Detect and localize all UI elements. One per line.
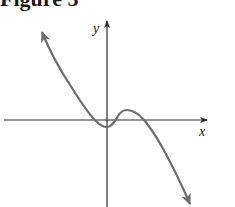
- function-graph: x y: [0, 0, 235, 207]
- function-curve-lower-tail: [168, 158, 190, 204]
- y-axis-label: y: [91, 21, 100, 36]
- function-curve-left: [72, 88, 107, 127]
- x-axis-label: x: [198, 124, 206, 139]
- function-curve-upper-tail: [42, 32, 72, 88]
- function-curve-middle: [107, 110, 168, 158]
